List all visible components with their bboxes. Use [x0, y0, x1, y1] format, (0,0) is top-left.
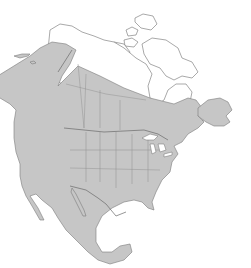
- north-america-range-map: [0, 0, 251, 268]
